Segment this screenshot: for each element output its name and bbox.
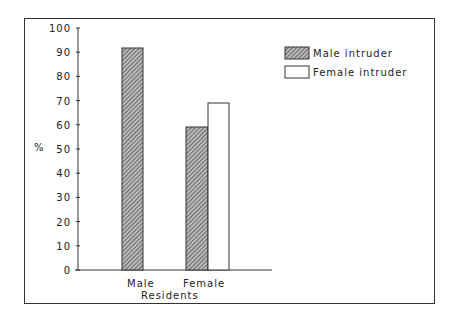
legend-label-female-intruder: Female intruder (313, 67, 407, 78)
y-axis-label: % (34, 142, 45, 153)
y-tick-label: 10 (56, 241, 71, 252)
legend-label-male-intruder: Male intruder (313, 48, 393, 59)
y-axis: 0102030405060708090100 (49, 23, 80, 276)
x-axis-label: Residents (141, 290, 199, 301)
y-tick-label: 40 (56, 168, 71, 179)
y-tick-label: 80 (56, 71, 71, 82)
bar-chart: 0102030405060708090100 % Male Female Res… (0, 0, 455, 324)
legend: Male intruder Female intruder (285, 47, 407, 78)
bar-female-male-intruder (186, 127, 208, 270)
y-tick-label: 20 (56, 217, 71, 228)
legend-swatch-male-intruder (285, 47, 309, 59)
y-tick-label: 50 (56, 144, 71, 155)
y-tick-label: 60 (56, 120, 71, 131)
y-tick-label: 30 (56, 192, 71, 203)
legend-swatch-female-intruder (285, 66, 309, 78)
x-tick-male: Male (127, 278, 155, 289)
y-tick-label: 90 (56, 47, 71, 58)
y-tick-label: 100 (49, 23, 71, 34)
x-tick-female: Female (183, 278, 225, 289)
y-tick-label: 70 (56, 96, 71, 107)
bar-male-male-intruder (122, 48, 143, 270)
y-tick-label: 0 (64, 265, 71, 276)
bar-female-female-intruder (208, 103, 229, 270)
